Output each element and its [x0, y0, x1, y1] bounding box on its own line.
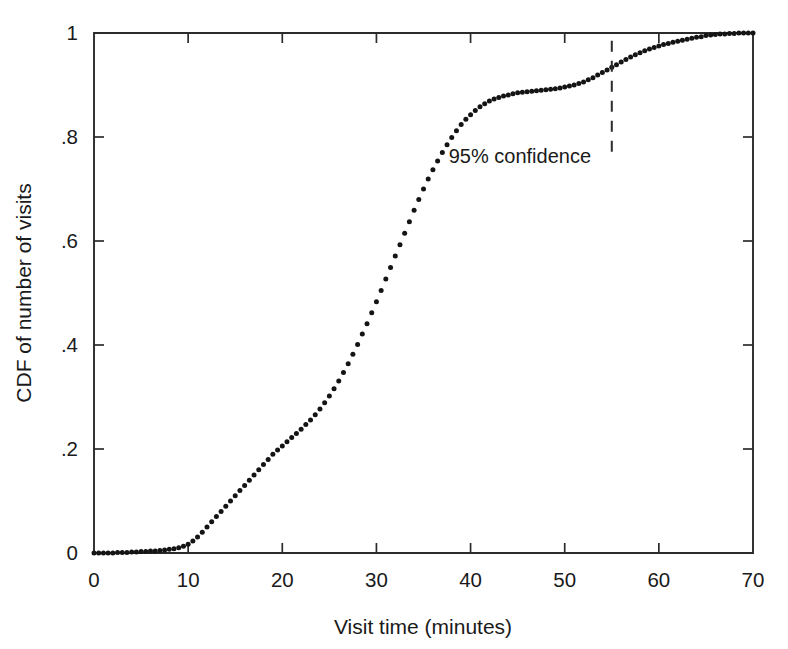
- data-point: [670, 40, 675, 45]
- data-point: [148, 548, 153, 553]
- data-point: [463, 117, 468, 122]
- data-point: [374, 299, 379, 304]
- data-point: [435, 158, 440, 163]
- data-point: [346, 361, 351, 366]
- data-point: [746, 31, 751, 36]
- data-point: [482, 101, 487, 106]
- data-point: [562, 85, 567, 90]
- data-point: [661, 42, 666, 47]
- data-point: [176, 545, 181, 550]
- y-tick-label-0: 0: [67, 541, 78, 564]
- data-point: [576, 81, 581, 86]
- data-point: [586, 77, 591, 82]
- data-point: [237, 488, 242, 493]
- data-point: [647, 47, 652, 52]
- data-point: [718, 32, 723, 37]
- y-tick-label-.4: .4: [61, 333, 78, 356]
- data-point: [412, 208, 417, 213]
- data-point: [280, 443, 285, 448]
- data-point: [402, 231, 407, 236]
- data-point: [473, 108, 478, 113]
- data-point: [501, 93, 506, 98]
- data-point: [732, 31, 737, 36]
- data-point: [270, 452, 275, 457]
- data-point: [619, 60, 624, 65]
- data-point: [129, 549, 134, 554]
- data-point: [143, 549, 148, 554]
- data-point: [252, 473, 257, 478]
- data-point: [492, 97, 497, 102]
- data-point: [543, 87, 548, 92]
- data-point: [327, 393, 332, 398]
- x-axis-title: Visit time (minutes): [334, 615, 512, 638]
- x-tick-label-70: 70: [742, 568, 765, 591]
- data-point: [534, 88, 539, 93]
- data-point: [92, 551, 97, 556]
- data-point: [628, 54, 633, 59]
- data-point: [699, 34, 704, 39]
- data-point: [369, 310, 374, 315]
- y-tick-label-.2: .2: [61, 437, 78, 460]
- data-point: [195, 534, 200, 539]
- data-point: [572, 83, 577, 88]
- data-point: [383, 276, 388, 281]
- data-point: [689, 36, 694, 41]
- data-point: [642, 48, 647, 53]
- data-point: [134, 549, 139, 554]
- data-point: [101, 551, 106, 556]
- data-point: [727, 31, 732, 36]
- data-point: [124, 550, 129, 555]
- data-point: [675, 39, 680, 44]
- data-point: [487, 99, 492, 104]
- data-point: [186, 542, 191, 547]
- data-point: [341, 370, 346, 375]
- data-point: [440, 150, 445, 155]
- x-tick-label-60: 60: [647, 568, 670, 591]
- data-point: [219, 509, 224, 514]
- data-point: [294, 431, 299, 436]
- data-point: [139, 549, 144, 554]
- data-point: [167, 547, 172, 552]
- y-axis-title: CDF of number of visits: [12, 183, 35, 402]
- data-point: [317, 406, 322, 411]
- data-point: [520, 90, 525, 95]
- x-tick-label-20: 20: [271, 568, 294, 591]
- data-point: [477, 104, 482, 109]
- data-point: [181, 544, 186, 549]
- data-point: [558, 86, 563, 91]
- data-point: [506, 92, 511, 97]
- data-point: [567, 84, 572, 89]
- y-tick-label-1: 1: [67, 21, 78, 44]
- data-point: [529, 89, 534, 94]
- data-point: [266, 457, 271, 462]
- data-point: [614, 62, 619, 67]
- data-point: [106, 551, 111, 556]
- data-point: [449, 135, 454, 140]
- data-point: [553, 86, 558, 91]
- data-point: [459, 122, 464, 127]
- data-point: [581, 79, 586, 84]
- data-point: [703, 33, 708, 38]
- data-point: [652, 45, 657, 50]
- data-point: [172, 546, 177, 551]
- data-point: [204, 525, 209, 530]
- data-point: [365, 321, 370, 326]
- data-point: [322, 400, 327, 405]
- data-point: [233, 493, 238, 498]
- data-point: [153, 548, 158, 553]
- data-point: [510, 91, 515, 96]
- x-tick-label-0: 0: [88, 568, 99, 591]
- data-point: [247, 478, 252, 483]
- data-point: [360, 332, 365, 337]
- data-point: [751, 31, 756, 36]
- data-point: [275, 448, 280, 453]
- confidence-label: 95% confidence: [449, 145, 591, 167]
- data-point: [722, 32, 727, 37]
- x-tick-label-30: 30: [365, 568, 388, 591]
- x-tick-label-10: 10: [177, 568, 200, 591]
- chart-canvas: 010203040506070 0.2.4.6.81 95% confidenc…: [0, 0, 788, 649]
- y-tick-label-.8: .8: [61, 125, 78, 148]
- data-point: [303, 422, 308, 427]
- data-point: [110, 551, 115, 556]
- data-point: [416, 197, 421, 202]
